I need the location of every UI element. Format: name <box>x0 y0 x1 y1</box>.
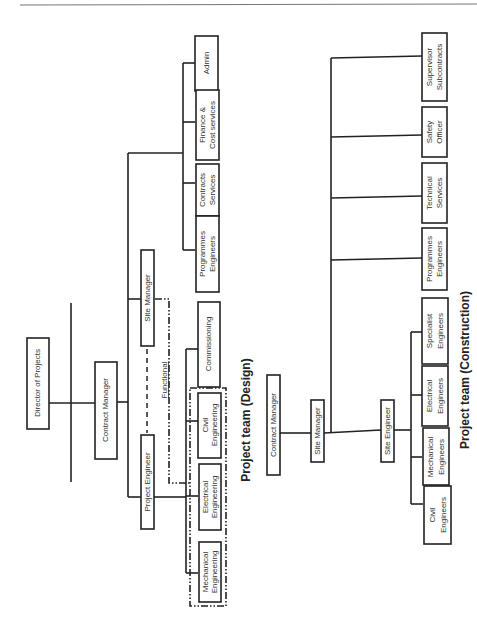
construction-electrical-label-1: Electrical <box>425 380 434 413</box>
finance-label-1: Finance & <box>198 106 207 143</box>
technical-label-2: Services <box>435 178 444 209</box>
technical-label-1: Technical <box>425 176 434 210</box>
specialist-label-2: Engineers <box>436 313 445 349</box>
design-civil-label-1: Civil <box>201 417 210 432</box>
construction-team-title: Project team (Construction) <box>458 291 472 449</box>
construction-civil-label-1: Civil <box>428 507 437 522</box>
specialist-label-1: Specialist <box>425 313 434 348</box>
supervisor-label-1: Supervisor <box>425 48 434 87</box>
design-electrical-label-1: Electrical <box>201 481 210 514</box>
site-engineer-label: Site Engineer <box>383 407 392 455</box>
construction-electrical-label-2: Engineers <box>436 378 445 414</box>
design-programmes-label-2: Engineers <box>208 236 217 272</box>
design-contract-manager-label: Contract Manager <box>101 378 110 442</box>
construction-site-manager-label: Site Manager <box>313 407 322 455</box>
finance-label-2: Cost services <box>208 101 217 149</box>
safety-label-1: Safety <box>425 121 434 144</box>
org-chart-canvas: Director of Projects Contract Manager Si… <box>0 0 477 621</box>
admin-label: Admin <box>202 52 211 75</box>
header-rule <box>20 4 477 5</box>
construction-contract-manager-label: Contract Manager <box>269 393 278 457</box>
safety-label-2: Officer <box>435 120 444 144</box>
project-engineer-label: Project Engineer <box>143 452 152 511</box>
supervisor-label-2: Subcontracts <box>435 44 444 91</box>
contracts-label-2: Services <box>208 175 217 206</box>
construction-programmes-label-1: Programmes <box>425 236 434 282</box>
director-of-projects-label: Director of Projects <box>33 349 42 417</box>
design-site-manager-label: Site Manager <box>143 274 152 322</box>
design-electrical-label-2: Engineering <box>210 476 219 519</box>
functional-label: Functional <box>160 361 169 398</box>
construction-civil-label-2: Engineers <box>439 497 448 533</box>
construction-mechanical-label-1: Mechanical <box>426 437 435 478</box>
design-mechanical-label-1: Mechanical <box>201 552 210 593</box>
commissioning-label: Commissioning <box>204 317 213 372</box>
design-civil-label-2: Engineering <box>210 404 219 447</box>
design-team-title: Project team (Design) <box>239 358 253 481</box>
construction-programmes-label-2: Engineers <box>435 241 444 277</box>
design-mechanical-label-2: Engineering <box>210 551 219 594</box>
contracts-label-1: Contracts <box>198 173 207 207</box>
construction-mechanical-label-2: Engineers <box>437 439 446 475</box>
design-programmes-label-1: Programmes <box>198 231 207 277</box>
